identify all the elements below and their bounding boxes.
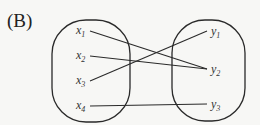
option-label: (B) (7, 10, 32, 32)
codomain-element-y3: y3 (210, 97, 220, 113)
domain-element-x1: x1 (75, 23, 85, 39)
mapping-line-x1-y2 (90, 31, 207, 69)
codomain-elements: y1y2y3 (210, 24, 220, 113)
mapping-line-x4-y3 (90, 104, 207, 106)
domain-element-x4: x4 (75, 98, 85, 114)
mapping-line-x3-y1 (90, 31, 207, 81)
domain-element-x2: x2 (75, 48, 85, 64)
codomain-element-y1: y1 (210, 24, 220, 40)
mapping-line-x2-y2 (90, 56, 207, 69)
domain-set-oval (52, 20, 130, 122)
codomain-element-y2: y2 (210, 62, 220, 78)
mapping-arrows (90, 31, 207, 106)
domain-element-x3: x3 (75, 73, 85, 89)
codomain-set-oval (172, 20, 245, 121)
domain-elements: x1x2x3x4 (75, 23, 85, 114)
mapping-diagram: (B) x1x2x3x4 y1y2y3 (0, 0, 260, 125)
